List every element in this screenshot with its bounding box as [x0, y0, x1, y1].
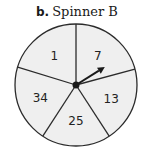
section-label-7: 7 — [94, 49, 102, 63]
section-label-13: 13 — [104, 92, 119, 106]
section-label-34: 34 — [33, 91, 48, 105]
spinner: 17132534 — [0, 0, 142, 158]
section-label-25: 25 — [68, 114, 83, 128]
pointer-hub — [73, 82, 80, 89]
section-label-1: 1 — [50, 49, 58, 63]
